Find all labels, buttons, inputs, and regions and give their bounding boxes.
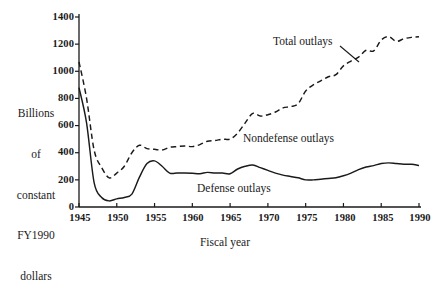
xtick-label-1960: 1960 <box>172 212 214 224</box>
xtick-label-1985: 1985 <box>362 212 404 224</box>
y-axis-title-line-5: dollars <box>0 270 72 284</box>
annotation-nondefense-outlays: Nondefense outlays <box>243 132 334 145</box>
y-axis-title-line-4: FY1990 <box>0 229 72 243</box>
xtick-label-1970: 1970 <box>248 212 290 224</box>
annotation-total-outlays: Total outlays <box>273 35 333 48</box>
ytick-label-1400: 1400 <box>36 11 74 23</box>
x-axis-title: Fiscal year <box>175 236 275 249</box>
y-axis-title: Billions of constant FY1990 dollars <box>0 80 72 284</box>
y-axis-title-line-3: constant <box>0 189 72 203</box>
series-line-total-outlays <box>79 37 419 178</box>
y-axis-title-line-1: Billions <box>0 107 72 121</box>
xtick-label-1965: 1965 <box>210 212 252 224</box>
total-outlays-leader-line <box>340 46 359 62</box>
xtick-label-1950: 1950 <box>97 212 139 224</box>
xtick-label-1990: 1990 <box>399 212 431 224</box>
annotation-defense-outlays: Defense outlays <box>197 182 271 195</box>
y-axis-title-line-2: of <box>0 148 72 162</box>
xtick-label-1955: 1955 <box>135 212 177 224</box>
ytick-label-1200: 1200 <box>36 38 74 50</box>
ytick-label-1000: 1000 <box>36 65 74 77</box>
xtick-label-1975: 1975 <box>286 212 328 224</box>
xtick-label-1980: 1980 <box>324 212 366 224</box>
